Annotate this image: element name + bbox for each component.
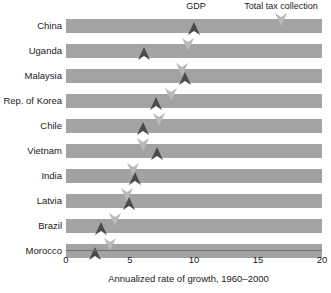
row-bar	[66, 94, 322, 108]
chart-row: Latvia	[0, 189, 331, 214]
row-label-china: China	[0, 19, 62, 32]
marker-total-tax-collection	[121, 188, 133, 201]
row-label-chile: Chile	[0, 119, 62, 132]
marker-total-tax-collection	[275, 13, 287, 26]
marker-gdp	[151, 147, 163, 160]
x-axis-line	[66, 250, 322, 251]
row-label-rep-of-korea: Rep. of Korea	[0, 94, 62, 107]
row-bar	[66, 144, 322, 158]
chart-row: Brazil	[0, 214, 331, 239]
marker-gdp	[137, 122, 149, 135]
row-bar	[66, 44, 322, 58]
marker-gdp	[188, 22, 200, 35]
chart-row: India	[0, 164, 331, 189]
row-bar	[66, 119, 322, 133]
row-label-india: India	[0, 169, 62, 182]
marker-total-tax-collection	[137, 138, 149, 151]
x-axis: Annualized rate of growth, 1960–2000 051…	[0, 250, 331, 293]
chart-row: Chile	[0, 114, 331, 139]
chart-row: China	[0, 14, 331, 39]
marker-total-tax-collection	[109, 213, 121, 226]
marker-gdp	[150, 97, 162, 110]
marker-total-tax-collection	[176, 63, 188, 76]
marker-total-tax-collection	[165, 88, 177, 101]
marker-total-tax-collection	[127, 163, 139, 176]
x-tick-label: 5	[115, 254, 145, 266]
legend-label-total-tax-collection: Total tax collection	[227, 1, 331, 12]
row-bar	[66, 169, 322, 183]
chart-row: Uganda	[0, 39, 331, 64]
row-label-brazil: Brazil	[0, 219, 62, 232]
row-label-uganda: Uganda	[0, 44, 62, 57]
chart-row: Malaysia	[0, 64, 331, 89]
x-tick-label: 10	[179, 254, 209, 266]
marker-total-tax-collection	[182, 38, 194, 51]
x-tick-label: 15	[243, 254, 273, 266]
chart-row: Vietnam	[0, 139, 331, 164]
row-bar	[66, 194, 322, 208]
row-label-malaysia: Malaysia	[0, 69, 62, 82]
chart-legend: GDP Total tax collection	[0, 0, 331, 14]
x-tick-label: 20	[307, 254, 331, 266]
x-tick-label: 0	[51, 254, 81, 266]
marker-gdp	[95, 222, 107, 235]
chart-plot-area: ChinaUgandaMalaysiaRep. of KoreaChileVie…	[0, 14, 331, 250]
marker-total-tax-collection	[153, 113, 165, 126]
marker-gdp	[138, 47, 150, 60]
x-axis-title: Annualized rate of growth, 1960–2000	[0, 272, 331, 285]
legend-label-gdp: GDP	[176, 1, 216, 12]
chart-row: Rep. of Korea	[0, 89, 331, 114]
row-label-vietnam: Vietnam	[0, 144, 62, 157]
growth-rate-chart: GDP Total tax collection ChinaUgandaMala…	[0, 0, 331, 293]
row-label-latvia: Latvia	[0, 194, 62, 207]
row-bar	[66, 69, 322, 83]
